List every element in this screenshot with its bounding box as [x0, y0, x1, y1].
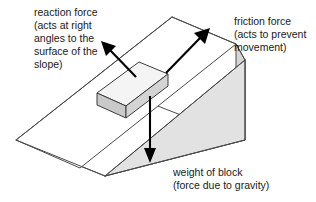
reaction-force-label-line-3: angles to the — [34, 32, 94, 44]
friction-force-label: friction force (acts to prevent movement… — [234, 15, 306, 53]
weight-force-label-line-1: weight of block — [172, 166, 243, 178]
reaction-force-label-line-1: reaction force — [34, 6, 98, 18]
slope-forces-figure: Forces acting on a block resting on a sl… — [0, 0, 316, 202]
physics-diagram: Forces acting on a block resting on a sl… — [0, 0, 316, 202]
reaction-force-label: reaction force (acts at right angles to … — [34, 6, 98, 70]
weight-force-label-line-2: (force due to gravity) — [173, 179, 269, 191]
friction-force-label-line-2: (acts to prevent — [234, 28, 306, 40]
weight-force-label: weight of block (force due to gravity) — [172, 166, 269, 191]
friction-force-label-line-1: friction force — [234, 15, 291, 27]
reaction-force-label-line-4: surface of the — [34, 45, 98, 57]
reaction-force-label-line-5: slope) — [34, 58, 63, 70]
friction-force-label-line-3: movement) — [234, 41, 287, 53]
reaction-force-label-line-2: (acts at right — [34, 19, 92, 31]
